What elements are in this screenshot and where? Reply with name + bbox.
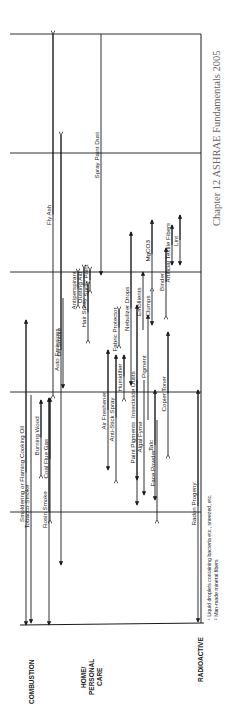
- range-label: Talc: [147, 440, 154, 451]
- range-label: Insecticide Dusts: [129, 371, 136, 418]
- baseline-axis: [20, 623, 204, 625]
- label-group: Fly AshAuto EmissionsTobacco SmokeBurnin…: [18, 132, 197, 529]
- range-label: Air Freshener: [100, 392, 107, 429]
- range-label: Burning Wood: [33, 416, 40, 456]
- range-label: Spray Paint: [82, 264, 89, 296]
- range-label: Hair Spray: [80, 297, 87, 327]
- range-label: Coal Flue Gas: [42, 439, 49, 479]
- range-label: MgCO3: [144, 240, 151, 262]
- range-label: Lint: [172, 236, 179, 246]
- range-label: Nebulizer Drops: [123, 287, 130, 331]
- range-label: Smoldering or Flaming Cooking Oil: [18, 426, 25, 522]
- range-label: Radon Progeny: [190, 482, 197, 526]
- range-label: Face Powder: [149, 450, 156, 486]
- footnote-1: ¹ Liquid droplets containing bacteria et…: [206, 495, 212, 620]
- category-home-label-2: PERSONAL: [88, 659, 95, 695]
- range-label: Artificial Textile Fibers: [164, 223, 171, 283]
- range-label: Paint Pigments: [129, 422, 136, 464]
- range-label: Oil Smoke: [55, 327, 62, 356]
- range-label: Clumps: [144, 296, 151, 317]
- range-label: Rosin Smoke: [41, 491, 48, 528]
- range-label: Humidifier: [116, 364, 123, 392]
- range-label: Emollients: [135, 287, 142, 316]
- range-label: Algal Fyme: [136, 421, 143, 453]
- range-label: Spray Paint Dust: [93, 132, 100, 179]
- particle-size-chart: Fly AshAuto EmissionsTobacco SmokeBurnin…: [0, 0, 240, 712]
- category-home-personal-care: HOME/ PERSONAL CARE: [80, 659, 103, 695]
- category-radioactive: RADIOACTIVE: [197, 637, 204, 682]
- range-label: Copier Toner: [160, 376, 167, 411]
- footnote-2: ² Man-made mineral fibers: [213, 559, 219, 620]
- chart-frame: [10, 34, 204, 625]
- caption: Chapter 12 ASHRAE Fundamentals 2005: [211, 50, 222, 226]
- category-home-label-1: HOME/: [80, 667, 87, 689]
- range-label: Fly Ash: [45, 204, 52, 225]
- range-label: Fabric Protector: [111, 307, 118, 351]
- category-combustion: COMBUSTION: [28, 659, 35, 704]
- range-label: Anti-Stick Spray: [108, 397, 115, 442]
- category-home-label-3: CARE: [96, 667, 103, 686]
- range-label: Pigment: [140, 355, 147, 378]
